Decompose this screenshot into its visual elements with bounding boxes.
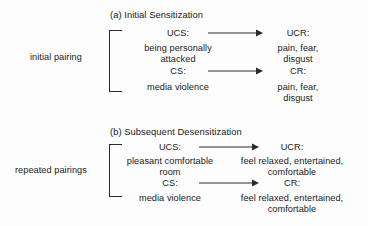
panel-a-row-0-response-line2: disgust [283,54,312,65]
panel-b-row-1-stimulus-line1: media violence [139,193,201,204]
panel-b-pairing-bracket [109,144,122,197]
panel-a-row-1-response-line2: disgust [283,93,312,104]
panel-a-title: (a) Initial Sensitization [110,9,203,20]
panel-b-row-0-response-code: UCR: [281,142,304,153]
panel-a-row-1-response-code: CR: [290,66,306,77]
diagram-canvas: (a) Initial Sensitization initial pairin… [0,0,368,226]
panel-a-pairing-label: initial pairing [30,52,82,63]
panel-a-row-1-arrow-icon [208,67,263,75]
panel-b-row-1-response-line2: comfortable [268,204,317,215]
panel-a-row-0-response-code: UCR: [287,28,310,39]
panel-a-row-0-arrow-icon [208,29,263,37]
panel-b-row-1-arrow-icon [199,179,259,187]
panel-a-row-0-stimulus-line2: attacked [160,54,195,65]
panel-a-row-1-stimulus-line1: media violence [147,82,209,93]
panel-a-row-0-stimulus-code: UCS: [167,28,189,39]
panel-a-pairing-bracket [109,30,122,92]
panel-b-row-0-stimulus-line2: room [159,167,180,178]
panel-b-row-0-response-line2: comfortable [268,167,317,178]
panel-b-title: (b) Subsequent Desensitization [110,126,242,137]
panel-a-row-0-stimulus-line1: being personally [144,43,212,54]
panel-b-row-0-response-line1: feel relaxed, entertained, [241,156,343,167]
panel-b-row-0-stimulus-line1: pleasant comfortable [127,156,213,167]
panel-b-pairing-label: repeated pairings [15,165,87,176]
panel-b-row-1-stimulus-code: CS: [162,178,177,189]
panel-b-row-1-response-line1: feel relaxed, entertained, [241,193,343,204]
panel-a-row-1-stimulus-code: CS: [170,66,185,77]
panel-a-row-0-response-line1: pain, fear, [278,43,319,54]
panel-b-row-0-stimulus-code: UCS: [159,142,181,153]
panel-b-row-0-arrow-icon [199,143,259,151]
panel-b-row-1-response-code: CR: [284,178,300,189]
panel-a-row-1-response-line1: pain, fear, [278,82,319,93]
